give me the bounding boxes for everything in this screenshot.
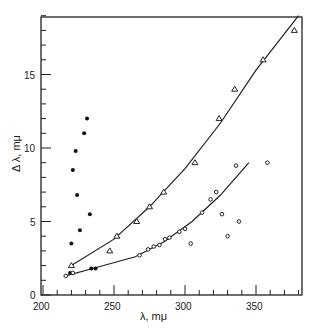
chart: 200250300350051015 Δ λ, mμ λ, mμ — [0, 0, 317, 331]
svg-text:200: 200 — [33, 301, 50, 312]
svg-text:10: 10 — [24, 143, 36, 154]
svg-text:350: 350 — [246, 301, 263, 312]
svg-text:250: 250 — [104, 301, 121, 312]
svg-text:0: 0 — [30, 290, 36, 301]
plot-area: 200250300350051015 — [24, 16, 302, 312]
x-axis-label: λ, mμ — [140, 310, 167, 322]
svg-text:5: 5 — [30, 217, 36, 228]
svg-text:300: 300 — [175, 301, 192, 312]
svg-text:15: 15 — [24, 70, 36, 81]
y-axis-label: Δ λ, mμ — [10, 135, 22, 172]
